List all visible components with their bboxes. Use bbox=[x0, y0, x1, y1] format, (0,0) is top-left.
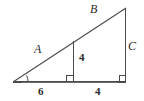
label-base-left: 6 bbox=[38, 86, 44, 97]
geometry-figure: A B C 4 6 4 bbox=[0, 0, 144, 101]
label-side-a: A bbox=[34, 43, 41, 55]
triangle-diagram-svg bbox=[0, 0, 144, 101]
right-angle-square-inner-icon bbox=[66, 75, 73, 82]
hypotenuse-line bbox=[13, 8, 126, 82]
label-side-c: C bbox=[128, 40, 136, 52]
label-side-b: B bbox=[90, 3, 97, 15]
label-inner-height: 4 bbox=[79, 52, 85, 63]
label-base-right: 4 bbox=[95, 86, 101, 97]
right-angle-square-corner-icon bbox=[119, 75, 126, 82]
angle-arc-icon bbox=[27, 75, 28, 82]
